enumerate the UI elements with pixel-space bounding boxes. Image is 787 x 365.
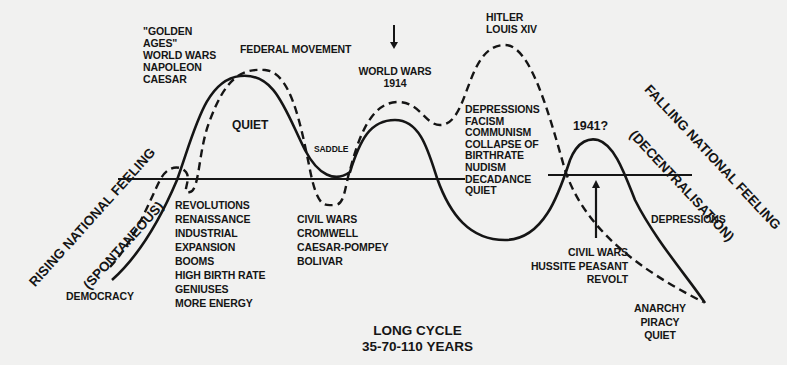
hitler-louis-label: HITLER LOUIS XIV [486,11,537,35]
federal-movement-label: FEDERAL MOVEMENT [240,43,351,55]
golden-ages-label: "GOLDEN AGES" WORLD WARS NAPOLEON CAESAR [143,25,216,85]
hussite-list-label: CIVIL WARS HUSSITE PEASANT REVOLT [530,246,628,287]
saddle-label: SADDLE [314,143,348,155]
arrow-down-icon [390,25,398,49]
quiet-label: QUIET [232,119,268,131]
anarchy-list-label: ANARCHY PIRACY QUIET [620,302,700,343]
depressions-list-label: DEPRESSIONS FACISM COMMUNISM COLLAPSE OF… [465,104,540,197]
civil-wars-list-label: CIVIL WARS CROMWELL CAESAR-POMPEY BOLIVA… [297,212,388,268]
revolutions-list-label: REVOLUTIONS RENAISSANCE INDUSTRIAL EXPAN… [175,198,265,310]
arrow-up-icon [592,180,600,238]
title-text: LONG CYCLE [340,323,495,339]
title-long-cycle: LONG CYCLE 35-70-110 YEARS [340,323,495,355]
world-wars-1914-label: WORLD WARS 1914 [354,65,436,89]
subtitle-text: 35-70-110 YEARS [340,339,495,355]
